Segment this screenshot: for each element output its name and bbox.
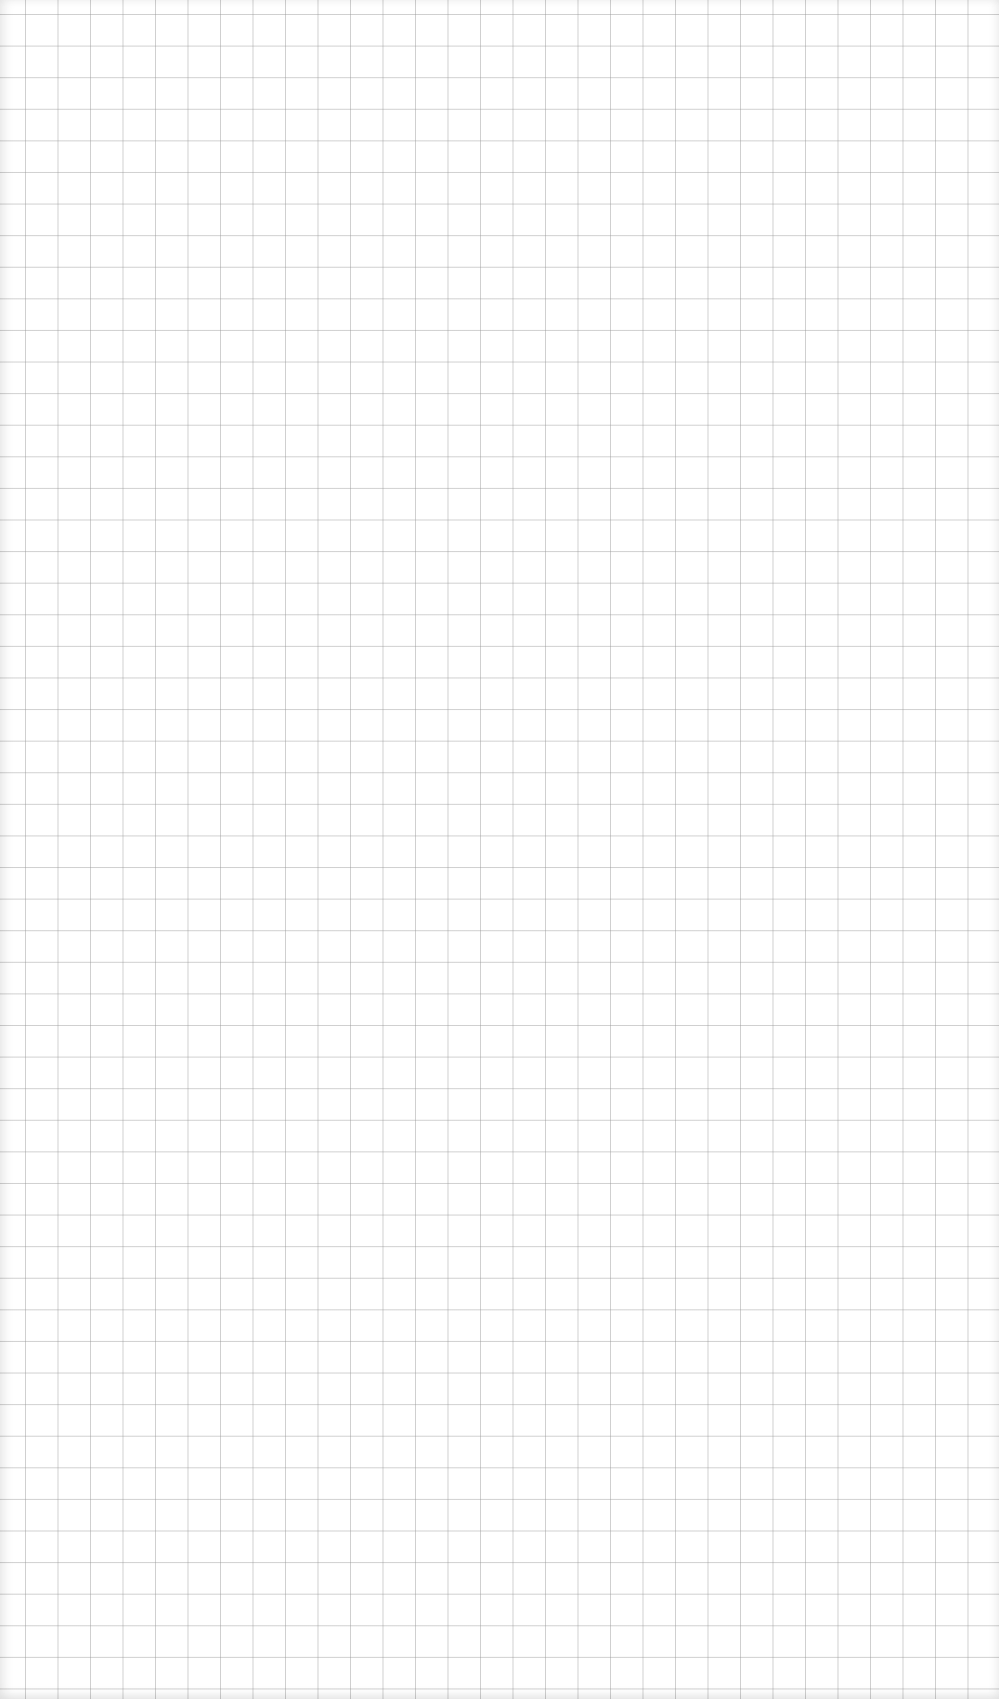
graph-paper-sheet	[0, 0, 999, 1699]
paper-edge-shadow	[0, 0, 999, 1699]
